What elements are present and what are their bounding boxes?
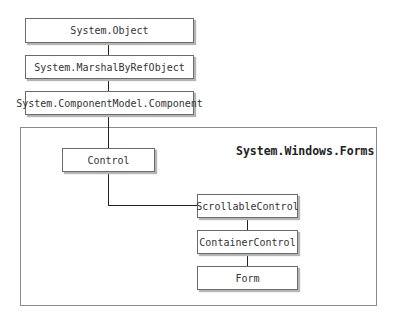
connector-line — [247, 218, 248, 230]
connector-line — [108, 205, 197, 206]
connector-line — [108, 172, 109, 206]
class-form: Form — [197, 266, 298, 290]
connector-line — [108, 115, 109, 148]
class-marshal-by-ref-object: System.MarshalByRefObject — [25, 55, 194, 79]
connector-line — [108, 43, 109, 55]
connector-line — [247, 254, 248, 266]
class-component: System.ComponentModel.Component — [25, 91, 194, 115]
class-scrollable-control: ScrollableControl — [197, 194, 298, 218]
class-control: Control — [62, 148, 155, 172]
class-system-object: System.Object — [25, 18, 194, 43]
connector-line — [108, 79, 109, 91]
namespace-label: System.Windows.Forms — [236, 144, 374, 158]
class-container-control: ContainerControl — [197, 230, 298, 254]
